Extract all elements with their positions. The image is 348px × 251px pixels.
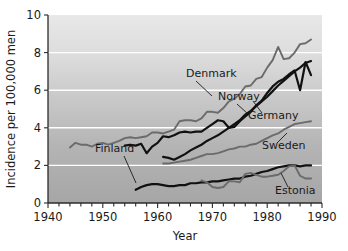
- y-tick-label: 0: [34, 196, 41, 210]
- y-tick-label: 6: [34, 83, 41, 97]
- x-tick-label: 1940: [33, 210, 62, 224]
- y-tick-label: 10: [26, 8, 41, 22]
- y-tick-label: 8: [34, 46, 41, 60]
- series-label-germany: Germany: [248, 109, 299, 122]
- series-label-denmark: Denmark: [186, 67, 237, 80]
- series-label-estonia: Estonia: [275, 184, 316, 197]
- x-tick-label: 1950: [88, 210, 117, 224]
- y-axis-title: Incidence per 100,000 men: [4, 30, 18, 188]
- incidence-line-chart: 0246810194019501960197019801990 DenmarkN…: [0, 0, 348, 251]
- x-tick-label: 1970: [198, 210, 227, 224]
- series-label-sweden: Sweden: [262, 139, 305, 152]
- figure-container: 0246810194019501960197019801990 DenmarkN…: [0, 0, 348, 251]
- x-tick-label: 1990: [307, 210, 336, 224]
- series-label-finland: Finland: [95, 142, 134, 155]
- caption-partial: [0, 244, 348, 251]
- series-label-norway: Norway: [218, 90, 260, 103]
- x-tick-label: 1980: [253, 210, 282, 224]
- x-tick-label: 1960: [143, 210, 172, 224]
- y-tick-label: 2: [34, 158, 41, 172]
- y-tick-label: 4: [34, 121, 41, 135]
- x-axis-title: Year: [172, 229, 198, 243]
